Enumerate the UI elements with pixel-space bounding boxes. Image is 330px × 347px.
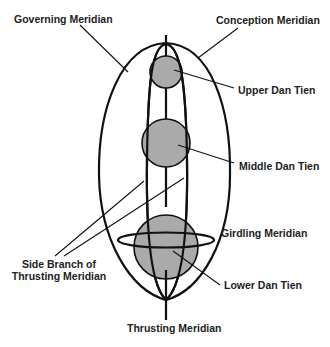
upper-dan-tien-label: Upper Dan Tien (238, 84, 315, 96)
middle-dan-tien-label: Middle Dan Tien (239, 160, 319, 172)
governing-leader (80, 25, 128, 72)
side-branch-label: Side Branch of Thrusting Meridian (8, 258, 110, 282)
girdling-meridian-label: Girdling Meridian (221, 227, 307, 239)
thrusting-meridian-label: Thrusting Meridian (127, 322, 222, 334)
lower-dan-tien-label: Lower Dan Tien (224, 279, 302, 291)
conception-meridian-label: Conception Meridian (216, 14, 320, 26)
meridian-diagram (0, 0, 330, 347)
conception-leader (198, 28, 238, 58)
side-branch-label-line2: Thrusting Meridian (8, 270, 110, 282)
middle-dan-tien-sphere (142, 119, 190, 167)
side-branch-label-line1: Side Branch of (8, 258, 110, 270)
governing-meridian-label: Governing Meridian (14, 13, 113, 25)
